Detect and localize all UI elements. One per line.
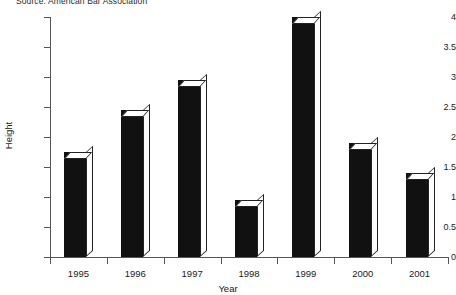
- y-tick-mark: [44, 77, 50, 78]
- bar-side-face: [314, 11, 321, 257]
- bar-side-face: [200, 74, 207, 257]
- y-tick-mark: [44, 197, 50, 198]
- bar: [235, 200, 257, 257]
- bar-side-face: [371, 137, 378, 257]
- y-tick-mark: [44, 107, 50, 108]
- y-axis-title: Height: [3, 112, 14, 160]
- bar: [178, 80, 200, 257]
- x-axis-title: Year: [0, 283, 456, 294]
- chart-figure: Source: American Bar Association 00.511.…: [0, 0, 456, 295]
- bar-side-face: [86, 146, 93, 257]
- bar: [292, 17, 314, 257]
- x-tick-label: 2001: [409, 268, 430, 279]
- x-tick-mark: [391, 257, 392, 264]
- y-tick-mark: [44, 47, 50, 48]
- bar-front-face: [406, 173, 428, 257]
- y-tick-mark: [44, 167, 50, 168]
- bar: [121, 110, 143, 257]
- y-tick-mark: [44, 17, 50, 18]
- x-tick-mark: [448, 257, 449, 264]
- bar: [64, 152, 86, 257]
- bar-front-face: [349, 143, 371, 257]
- x-tick-label: 1995: [68, 268, 89, 279]
- bar-side-face: [428, 167, 435, 257]
- y-tick-label: 2: [418, 132, 456, 142]
- x-tick-label: 1999: [295, 268, 316, 279]
- y-tick-label: 3.5: [418, 42, 456, 52]
- x-axis-line: [50, 257, 448, 258]
- y-tick-mark: [44, 227, 50, 228]
- y-tick-label: 1.5: [418, 162, 456, 172]
- bar-side-face: [143, 104, 150, 257]
- y-tick-label: 2.5: [418, 102, 456, 112]
- y-axis-line: [50, 17, 51, 257]
- x-tick-mark: [164, 257, 165, 264]
- x-tick-mark: [50, 257, 51, 264]
- plot-area: 00.511.522.533.54 1995199619971998199920…: [0, 0, 456, 295]
- x-tick-mark: [221, 257, 222, 264]
- x-tick-label: 2000: [352, 268, 373, 279]
- y-tick-label: 3: [418, 72, 456, 82]
- x-tick-label: 1996: [125, 268, 146, 279]
- bar-front-face: [292, 17, 314, 257]
- x-tick-mark: [107, 257, 108, 264]
- x-tick-mark: [334, 257, 335, 264]
- bar-front-face: [121, 110, 143, 257]
- x-tick-mark: [277, 257, 278, 264]
- x-tick-label: 1997: [182, 268, 203, 279]
- bar-front-face: [235, 200, 257, 257]
- y-tick-mark: [44, 137, 50, 138]
- bar: [406, 173, 428, 257]
- y-tick-label: 4: [418, 12, 456, 22]
- bar-front-face: [64, 152, 86, 257]
- bar: [349, 143, 371, 257]
- x-tick-label: 1998: [238, 268, 259, 279]
- bar-front-face: [178, 80, 200, 257]
